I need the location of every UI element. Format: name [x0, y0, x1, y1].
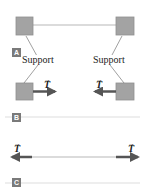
tension-label-a-right: → T	[44, 80, 50, 90]
support-pointer-left-bottom	[24, 65, 38, 83]
panel-label-c: C	[12, 178, 21, 187]
block-top-left	[16, 17, 33, 35]
panel-label-a: A	[12, 48, 21, 57]
vector-arrow-icon: →	[128, 139, 135, 149]
diagram-graphics	[0, 0, 151, 195]
vector-arrow-icon: →	[44, 75, 51, 85]
support-pointer-left-top	[26, 36, 37, 56]
block-top-right	[116, 17, 134, 35]
support-pointer-right-top	[112, 36, 122, 55]
vector-arrow-icon: →	[96, 75, 103, 85]
block-bottom-left	[16, 83, 33, 100]
support-pointer-right-bottom	[110, 65, 124, 83]
tension-diagram: A B C Support Support → T → T → T → T	[0, 0, 151, 195]
tension-label-b-left: → T	[14, 144, 20, 154]
vector-arrow-icon: →	[14, 139, 21, 149]
support-label-right: Support	[92, 55, 126, 65]
tension-label-a-left: → T	[96, 80, 102, 90]
block-bottom-right	[116, 83, 134, 100]
tension-label-b-right: → T	[128, 144, 134, 154]
support-label-left: Support	[21, 55, 55, 65]
panel-label-b: B	[12, 113, 21, 122]
